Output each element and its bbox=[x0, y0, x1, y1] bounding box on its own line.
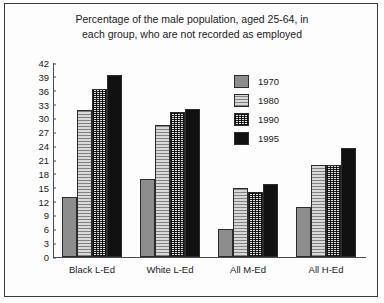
y-axis-tick-mark bbox=[53, 105, 56, 106]
x-axis-label-1: Black L-Ed bbox=[62, 264, 122, 275]
legend-swatch-1995 bbox=[234, 132, 249, 145]
y-axis-tick-mark bbox=[53, 229, 56, 230]
legend-label-1970: 1970 bbox=[258, 76, 279, 87]
y-axis-tick: 39 bbox=[35, 71, 53, 82]
y-axis-tick-label: 6 bbox=[35, 224, 49, 235]
y-axis-tick-label: 18 bbox=[35, 168, 49, 179]
y-axis-tick-label: 21 bbox=[35, 155, 49, 166]
y-axis-tick-label: 42 bbox=[35, 58, 49, 69]
bar-1995-all-h-ed[interactable] bbox=[341, 148, 356, 257]
y-axis-tick-mark bbox=[53, 160, 56, 161]
bar-1980-black-l-ed[interactable] bbox=[77, 110, 92, 257]
legend-label-1990: 1990 bbox=[258, 114, 279, 125]
bar-1995-black-l-ed[interactable] bbox=[107, 75, 122, 257]
y-axis-tick-mark bbox=[53, 63, 56, 64]
bar-group: White L-Ed bbox=[140, 63, 200, 257]
y-axis-tick-mark bbox=[53, 257, 56, 258]
y-axis-tick-mark bbox=[53, 215, 56, 216]
y-axis-tick-label: 30 bbox=[35, 113, 49, 124]
bar-1990-white-l-ed[interactable] bbox=[170, 112, 185, 257]
y-axis-tick-mark bbox=[53, 202, 56, 203]
bar-1990-all-h-ed[interactable] bbox=[326, 165, 341, 257]
bar-1970-all-h-ed[interactable] bbox=[296, 207, 311, 257]
legend-label-1995: 1995 bbox=[258, 133, 279, 144]
y-axis-tick-mark bbox=[53, 77, 56, 78]
y-axis-tick-label: 33 bbox=[35, 99, 49, 110]
y-axis-tick: 33 bbox=[35, 99, 53, 110]
y-axis-tick-label: 24 bbox=[35, 141, 49, 152]
legend-item-1970[interactable]: 1970 bbox=[234, 73, 279, 90]
bar-1995-white-l-ed[interactable] bbox=[185, 109, 200, 257]
bar-1990-black-l-ed[interactable] bbox=[92, 89, 107, 257]
x-axis-label-4: All H-Ed bbox=[296, 264, 356, 275]
y-axis-tick-mark bbox=[53, 188, 56, 189]
chart-title-line-1: Percentage of the male population, aged … bbox=[23, 12, 361, 27]
legend-item-1995[interactable]: 1995 bbox=[234, 130, 279, 147]
y-axis-tick: 36 bbox=[35, 85, 53, 96]
y-axis-tick: 42 bbox=[35, 58, 53, 69]
y-axis-tick: 27 bbox=[35, 127, 53, 138]
chart-frame: Percentage of the male population, aged … bbox=[4, 3, 378, 297]
x-axis-line bbox=[53, 257, 366, 258]
bar-1970-all-m-ed[interactable] bbox=[218, 229, 233, 257]
legend-item-1990[interactable]: 1990 bbox=[234, 111, 279, 128]
y-axis-tick-mark bbox=[53, 132, 56, 133]
y-axis-tick: 30 bbox=[35, 113, 53, 124]
legend-swatch-1980 bbox=[234, 94, 249, 107]
bar-1995-all-m-ed[interactable] bbox=[263, 184, 278, 257]
y-axis-tick: 3 bbox=[35, 238, 53, 249]
legend-label-1980: 1980 bbox=[258, 95, 279, 106]
legend-swatch-1990 bbox=[234, 113, 249, 126]
y-axis-tick-label: 15 bbox=[35, 182, 49, 193]
y-axis-tick-mark bbox=[53, 146, 56, 147]
y-axis-tick: 12 bbox=[35, 196, 53, 207]
bar-group: Black L-Ed bbox=[62, 63, 122, 257]
x-axis-label-3: All M-Ed bbox=[218, 264, 278, 275]
legend-swatch-1970 bbox=[234, 75, 249, 88]
chart-legend: 1970198019901995 bbox=[234, 73, 279, 149]
bar-1980-all-h-ed[interactable] bbox=[311, 165, 326, 257]
bar-1970-white-l-ed[interactable] bbox=[140, 179, 155, 257]
y-axis-tick: 6 bbox=[35, 224, 53, 235]
y-axis-tick-label: 39 bbox=[35, 71, 49, 82]
y-axis-tick-mark bbox=[53, 243, 56, 244]
legend-item-1980[interactable]: 1980 bbox=[234, 92, 279, 109]
y-axis-tick-label: 3 bbox=[35, 238, 49, 249]
y-axis-tick: 9 bbox=[35, 210, 53, 221]
bar-1980-white-l-ed[interactable] bbox=[155, 125, 170, 257]
y-axis-tick: 24 bbox=[35, 141, 53, 152]
bar-1980-all-m-ed[interactable] bbox=[233, 188, 248, 257]
y-axis-tick-label: 0 bbox=[35, 252, 49, 263]
y-axis-tick: 21 bbox=[35, 155, 53, 166]
y-axis-tick-mark bbox=[53, 174, 56, 175]
y-axis-tick-label: 36 bbox=[35, 85, 49, 96]
y-axis-tick: 18 bbox=[35, 168, 53, 179]
y-axis-tick-mark bbox=[53, 118, 56, 119]
y-axis-tick-mark bbox=[53, 91, 56, 92]
y-axis-tick-label: 12 bbox=[35, 196, 49, 207]
chart-title: Percentage of the male population, aged … bbox=[23, 12, 361, 42]
bar-group: All H-Ed bbox=[296, 63, 356, 257]
chart-title-line-2: each group, who are not recorded as empl… bbox=[23, 27, 361, 42]
y-axis-tick-label: 27 bbox=[35, 127, 49, 138]
y-axis-tick: 15 bbox=[35, 182, 53, 193]
plot-area: 03691215182124273033363942Black L-EdWhit… bbox=[53, 63, 365, 257]
y-axis-tick-label: 9 bbox=[35, 210, 49, 221]
bar-1970-black-l-ed[interactable] bbox=[62, 197, 77, 257]
y-axis-tick: 0 bbox=[35, 252, 53, 263]
bar-1990-all-m-ed[interactable] bbox=[248, 192, 263, 257]
x-axis-label-2: White L-Ed bbox=[140, 264, 200, 275]
